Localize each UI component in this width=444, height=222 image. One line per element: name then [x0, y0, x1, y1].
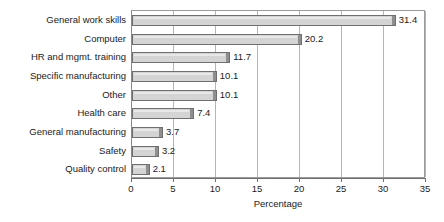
- value-label: 2.1: [153, 163, 166, 174]
- gridline-25: [341, 11, 342, 177]
- x-tick: [341, 178, 342, 182]
- bar-end-cap: [155, 147, 158, 156]
- bar: [132, 34, 302, 45]
- value-label: 20.2: [305, 33, 324, 44]
- category-label: General work skills: [0, 14, 126, 25]
- category-label: Specific manufacturing: [0, 70, 126, 81]
- bar-end-cap: [392, 16, 395, 25]
- value-label: 3.2: [162, 145, 175, 156]
- x-tick: [131, 178, 132, 182]
- category-label: HR and mgmt. training: [0, 51, 126, 62]
- x-tick-label: 0: [119, 183, 143, 194]
- category-label: Other: [0, 89, 126, 100]
- x-tick: [173, 178, 174, 182]
- bar-end-cap: [213, 91, 216, 100]
- value-label: 3.7: [166, 126, 179, 137]
- bar-end-cap: [298, 35, 301, 44]
- plot-area: [131, 10, 425, 178]
- value-label: 10.1: [220, 70, 239, 81]
- bar: [132, 146, 159, 157]
- x-tick: [215, 178, 216, 182]
- bar: [132, 71, 217, 82]
- bar-highlight: [134, 148, 154, 150]
- bar-highlight: [134, 110, 189, 112]
- bar-highlight: [134, 73, 212, 75]
- bar: [132, 90, 217, 101]
- gridline-35: [425, 11, 426, 177]
- bar-highlight: [134, 17, 391, 19]
- bar-highlight: [134, 54, 225, 56]
- bar: [132, 15, 396, 26]
- bar-highlight: [134, 92, 212, 94]
- x-tick-label: 25: [329, 183, 353, 194]
- x-axis-line: [131, 178, 425, 179]
- value-label: 11.7: [233, 51, 251, 62]
- x-tick: [383, 178, 384, 182]
- bar-highlight: [134, 166, 145, 168]
- category-label: General manufacturing: [0, 126, 126, 137]
- bar: [132, 164, 150, 175]
- category-label: Computer: [0, 33, 126, 44]
- bar-end-cap: [213, 72, 216, 81]
- value-label: 31.4: [399, 14, 418, 25]
- category-label: Quality control: [0, 163, 126, 174]
- x-tick: [425, 178, 426, 182]
- category-label: Health care: [0, 107, 126, 118]
- x-tick: [257, 178, 258, 182]
- x-tick-label: 10: [203, 183, 227, 194]
- bar-end-cap: [146, 165, 149, 174]
- x-tick-label: 20: [287, 183, 311, 194]
- x-axis-title: Percentage: [131, 198, 425, 209]
- bar: [132, 127, 163, 138]
- gridline-30: [383, 11, 384, 177]
- x-tick-label: 15: [245, 183, 269, 194]
- bar-end-cap: [226, 53, 229, 62]
- bar-end-cap: [159, 128, 162, 137]
- category-label: Safety: [0, 145, 126, 156]
- bar-chart: General work skillsComputerHR and mgmt. …: [0, 0, 444, 222]
- value-label: 7.4: [197, 107, 210, 118]
- value-label: 10.1: [220, 89, 239, 100]
- bar-highlight: [134, 129, 158, 131]
- bar-end-cap: [190, 109, 193, 118]
- x-tick-label: 5: [161, 183, 185, 194]
- x-tick-label: 35: [413, 183, 437, 194]
- x-tick-label: 30: [371, 183, 395, 194]
- bar: [132, 52, 230, 63]
- x-tick: [299, 178, 300, 182]
- bar-highlight: [134, 36, 297, 38]
- category-axis-labels: General work skillsComputerHR and mgmt. …: [0, 10, 126, 178]
- bar: [132, 108, 194, 119]
